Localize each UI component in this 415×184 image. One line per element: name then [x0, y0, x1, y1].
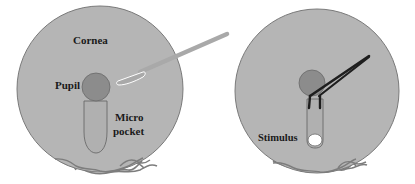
- left-panel: Cornea Pupil Micro pocket: [17, 6, 227, 174]
- corneal-micropocket-diagram: Cornea Pupil Micro pocket: [0, 0, 415, 184]
- stimulus-pellet: [308, 134, 322, 146]
- right-panel: Stimulus: [235, 9, 399, 173]
- label-stimulus: Stimulus: [258, 132, 298, 143]
- pupil-right: [299, 70, 325, 96]
- label-micro: Micro: [115, 111, 144, 123]
- label-cornea: Cornea: [73, 34, 108, 46]
- micropocket-left: [84, 101, 107, 153]
- diagram-canvas: Cornea Pupil Micro pocket: [0, 0, 415, 184]
- label-pocket: pocket: [113, 125, 145, 137]
- pupil-left: [82, 73, 110, 101]
- label-pupil: Pupil: [55, 79, 80, 91]
